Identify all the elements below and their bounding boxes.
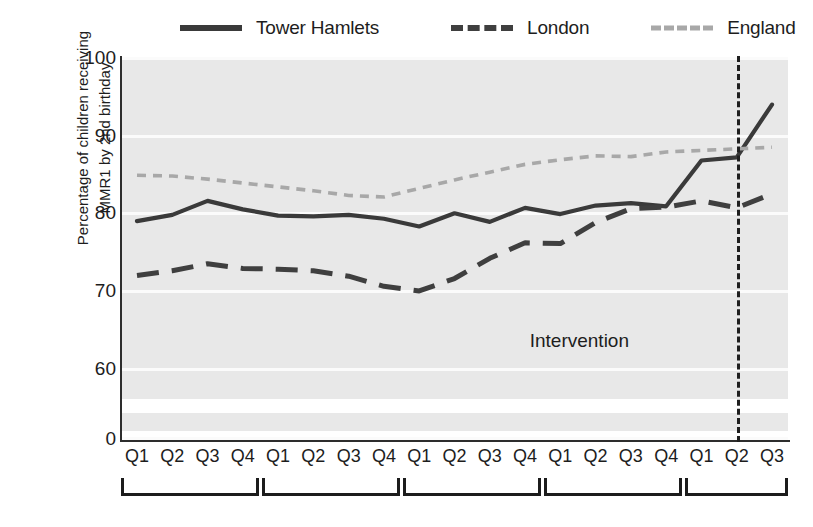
dotted-line-swatch-icon bbox=[651, 21, 713, 35]
y-tick-label: 60 bbox=[76, 358, 116, 380]
legend-label: England bbox=[727, 17, 795, 39]
chart-legend: Tower Hamlets London England bbox=[150, 14, 790, 42]
y-axis-ticks: 100908070600 bbox=[70, 58, 116, 440]
year-bracket bbox=[403, 478, 541, 496]
x-tick-label: Q4 bbox=[364, 446, 404, 467]
x-tick-label: Q2 bbox=[576, 446, 616, 467]
solid-line-swatch-icon bbox=[180, 21, 242, 35]
y-tick-label: 90 bbox=[76, 125, 116, 147]
x-tick-label: Q3 bbox=[188, 446, 228, 467]
x-tick-label: Q1 bbox=[399, 446, 439, 467]
y-tick-label: 80 bbox=[76, 202, 116, 224]
dashed-line-swatch-icon bbox=[451, 21, 513, 35]
x-tick-label: Q2 bbox=[435, 446, 475, 467]
legend-label: Tower Hamlets bbox=[256, 17, 379, 39]
year-bracket bbox=[685, 478, 788, 496]
series-line-tower-hamlets bbox=[137, 105, 772, 227]
intervention-vline bbox=[737, 56, 740, 442]
y-tick-label: 100 bbox=[76, 47, 116, 69]
x-tick-label: Q4 bbox=[223, 446, 263, 467]
legend-entry-tower-hamlets: Tower Hamlets bbox=[180, 17, 379, 39]
x-tick-label: Q4 bbox=[646, 446, 686, 467]
chart-series-layer bbox=[122, 58, 788, 440]
x-tick-label: Q3 bbox=[611, 446, 651, 467]
x-tick-label: Q1 bbox=[540, 446, 580, 467]
x-axis-ticks: Q1Q2Q3Q4Q1Q2Q3Q4Q1Q2Q3Q4Q1Q2Q3Q4Q1Q2Q3 bbox=[0, 446, 813, 472]
x-tick-label: Q2 bbox=[152, 446, 192, 467]
x-tick-label: Q2 bbox=[293, 446, 333, 467]
x-tick-label: Q4 bbox=[505, 446, 545, 467]
chart-figure: Tower Hamlets London England Percentage … bbox=[0, 0, 813, 527]
x-tick-label: Q3 bbox=[752, 446, 792, 467]
intervention-label: Intervention bbox=[530, 330, 629, 352]
x-tick-label: Q1 bbox=[117, 446, 157, 467]
year-group-brackets bbox=[0, 478, 813, 500]
y-tick-label: 70 bbox=[76, 280, 116, 302]
x-tick-label: Q3 bbox=[329, 446, 369, 467]
x-tick-label: Q2 bbox=[717, 446, 757, 467]
x-tick-label: Q1 bbox=[681, 446, 721, 467]
year-bracket bbox=[262, 478, 400, 496]
legend-entry-england: England bbox=[651, 17, 795, 39]
x-tick-label: Q1 bbox=[258, 446, 298, 467]
year-bracket bbox=[544, 478, 682, 496]
legend-entry-london: London bbox=[451, 17, 589, 39]
x-axis-line bbox=[120, 440, 790, 442]
year-bracket bbox=[121, 478, 259, 496]
x-tick-label: Q3 bbox=[470, 446, 510, 467]
legend-label: London bbox=[527, 17, 589, 39]
